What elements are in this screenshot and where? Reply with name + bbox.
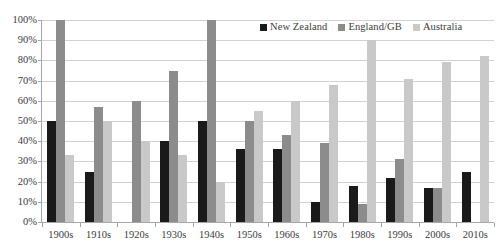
bar-group (117, 20, 155, 222)
bar (329, 85, 338, 222)
bar (442, 62, 451, 222)
x-axis-tick (42, 223, 80, 227)
x-axis-tick-label: 1930s (155, 228, 193, 244)
x-axis-tick-label: 1950s (230, 228, 268, 244)
x-axis-ticks (42, 223, 494, 227)
x-axis-tick (117, 223, 155, 227)
bar-group (80, 20, 118, 222)
bar (85, 172, 94, 223)
bar (320, 143, 329, 222)
x-axis-tick-label: 1900s (42, 228, 80, 244)
x-axis-tick (343, 223, 381, 227)
bar (349, 186, 358, 222)
y-axis-tick-label: 70% (18, 75, 37, 86)
bar (433, 188, 442, 222)
bar (94, 107, 103, 222)
y-axis-tick-label: 60% (18, 96, 37, 107)
x-axis-tick (230, 223, 268, 227)
bar (216, 182, 225, 222)
x-axis-tick-label: 1910s (80, 228, 118, 244)
bar-group (193, 20, 231, 222)
y-axis-tick-label: 0% (23, 217, 37, 228)
y-axis-tick-label: 100% (13, 15, 38, 26)
bar (207, 20, 216, 222)
x-axis-tick (155, 223, 193, 227)
x-axis-tick (456, 223, 494, 227)
bar-groups (42, 20, 494, 222)
bar-group (456, 20, 494, 222)
x-axis-tick-label: 2000s (419, 228, 457, 244)
bar (282, 135, 291, 222)
bar (291, 101, 300, 222)
bar (132, 101, 141, 222)
bar-group (306, 20, 344, 222)
bar (367, 40, 376, 222)
bar (65, 155, 74, 222)
x-axis-tick (80, 223, 118, 227)
bar (47, 121, 56, 222)
bar (245, 121, 254, 222)
y-axis-labels: 0%10%20%30%40%50%60%70%80%90%100% (0, 20, 37, 223)
bar (236, 149, 245, 222)
bar-group (419, 20, 457, 222)
x-axis-tick (419, 223, 457, 227)
bar (141, 141, 150, 222)
bar (386, 178, 395, 222)
x-axis-tick-label: 2010s (456, 228, 494, 244)
bar (480, 56, 489, 222)
bar (273, 149, 282, 222)
bar-group (381, 20, 419, 222)
bar-group (155, 20, 193, 222)
y-axis-tick-label: 80% (18, 55, 37, 66)
bar (103, 121, 112, 222)
caption-strip-partial (0, 243, 501, 248)
x-axis-tick-label: 1940s (193, 228, 231, 244)
bar (404, 79, 413, 222)
x-axis-tick (268, 223, 306, 227)
y-axis-tick-label: 20% (18, 176, 37, 187)
bar (358, 204, 367, 222)
x-axis-tick-label: 1990s (381, 228, 419, 244)
bar (169, 71, 178, 223)
bar (424, 188, 433, 222)
x-axis-tick-label: 1970s (306, 228, 344, 244)
bar (160, 141, 169, 222)
y-axis-tick-label: 50% (18, 116, 37, 127)
x-axis-tick (381, 223, 419, 227)
y-axis-tick-label: 10% (18, 197, 37, 208)
x-axis-labels: 1900s1910s1920s1930s1940s1950s1960s1970s… (42, 228, 494, 244)
y-axis-tick-label: 90% (18, 35, 37, 46)
bar-group (42, 20, 80, 222)
grouped-bar-chart: New Zealand England/GB Australia 0%10%20… (0, 0, 501, 248)
bar (462, 172, 471, 223)
bar-group (230, 20, 268, 222)
bar (395, 159, 404, 222)
x-axis-tick-label: 1920s (117, 228, 155, 244)
y-axis-tick-label: 40% (18, 136, 37, 147)
bar-group (343, 20, 381, 222)
bar (254, 111, 263, 222)
y-axis-tick-label: 30% (18, 156, 37, 167)
bar (56, 20, 65, 222)
bar (311, 202, 320, 222)
x-axis-tick (193, 223, 231, 227)
bar-group (268, 20, 306, 222)
bar (178, 155, 187, 222)
x-axis-tick (306, 223, 344, 227)
bar (198, 121, 207, 222)
x-axis-tick-label: 1980s (343, 228, 381, 244)
x-axis-tick-label: 1960s (268, 228, 306, 244)
